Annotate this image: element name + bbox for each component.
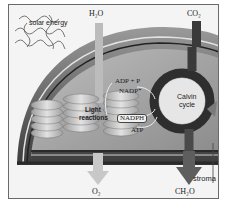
- co2-label: CO₂: [187, 10, 201, 18]
- calvin-cycle-label-line2: cycle: [179, 101, 195, 108]
- co2-input-arrow: [192, 21, 201, 47]
- calvin-cycle-label-line1: Calvin: [177, 93, 196, 100]
- solar-energy-label-line1: solar energy: [29, 19, 68, 26]
- light-reactions-label-line2: reactions: [79, 115, 108, 122]
- stroma-label: stroma: [193, 175, 216, 183]
- nadph-label: NADPH: [117, 114, 147, 123]
- water-label: H₂O: [89, 10, 103, 18]
- carbohydrate-label: CH₂O: [175, 188, 195, 196]
- light-reactions-label-line1: Light: [85, 107, 101, 114]
- adp-p-label: ADP + P: [115, 78, 140, 85]
- diagram-frame: solar energy H₂O CO₂ ADP + P NADP⁺ Light…: [8, 4, 219, 199]
- nadp-label: NADP⁺: [119, 88, 142, 95]
- oxygen-label: O₂: [92, 188, 101, 196]
- water-input-arrow: [95, 23, 103, 103]
- atp-label: ATP: [131, 127, 143, 134]
